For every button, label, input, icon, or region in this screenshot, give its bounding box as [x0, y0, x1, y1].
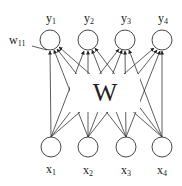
output-label-1: y1 — [46, 11, 56, 26]
input-node-1 — [41, 137, 61, 157]
input-layer — [41, 137, 172, 157]
input-label-2: x2 — [83, 163, 93, 178]
input-label-4: x4 — [157, 163, 167, 178]
input-node-4 — [152, 137, 172, 157]
output-node-1 — [40, 30, 60, 50]
input-node-2 — [78, 137, 98, 157]
input-node-3 — [116, 137, 136, 157]
output-label-4: y4 — [158, 11, 168, 26]
output-label-3: y3 — [121, 11, 131, 26]
weight-annotation-label: w11 — [9, 33, 25, 48]
output-node-3 — [115, 30, 135, 50]
output-node-4 — [152, 30, 172, 50]
output-label-2: y2 — [84, 11, 94, 26]
input-label-3: x3 — [121, 163, 131, 178]
input-label-1: x1 — [46, 162, 56, 177]
network-diagram: W y1 y2 y3 y4 w11 x1 x2 x3 x4 — [0, 0, 182, 186]
weight-matrix-label: W — [93, 78, 118, 107]
output-node-2 — [78, 30, 98, 50]
output-layer — [40, 30, 172, 50]
